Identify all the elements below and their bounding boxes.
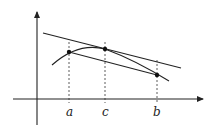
mvt-diagram: a c b bbox=[0, 0, 216, 129]
point-b bbox=[155, 73, 159, 77]
point-c bbox=[103, 47, 107, 51]
secant-line bbox=[69, 52, 157, 75]
label-b: b bbox=[153, 105, 161, 119]
label-c: c bbox=[102, 105, 109, 119]
point-a bbox=[67, 50, 71, 54]
label-a: a bbox=[66, 105, 73, 119]
